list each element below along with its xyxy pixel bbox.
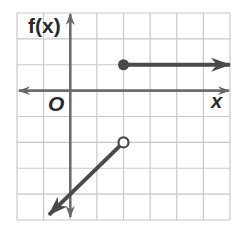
- y-axis-label: f(x): [28, 14, 61, 38]
- x-axis-label: x: [211, 90, 222, 113]
- closed-endpoint: [118, 59, 129, 70]
- open-endpoint: [119, 137, 129, 147]
- lower-ray: [49, 142, 124, 214]
- origin-label: O: [48, 92, 64, 116]
